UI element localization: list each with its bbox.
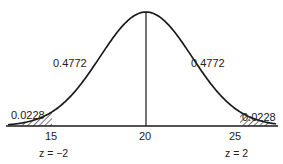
label-right-tail-area: 0.0228 bbox=[242, 112, 276, 123]
label-right-center-area: 0.4772 bbox=[191, 58, 225, 69]
tick-label-20: 20 bbox=[139, 131, 151, 142]
bell-curve bbox=[8, 12, 276, 125]
z-label-right: z = 2 bbox=[225, 148, 248, 159]
tick-label-25: 25 bbox=[229, 131, 241, 142]
tick-label-15: 15 bbox=[45, 131, 57, 142]
label-left-center-area: 0.4772 bbox=[53, 58, 87, 69]
label-left-tail-area: 0.0228 bbox=[11, 110, 45, 121]
z-label-left: z = −2 bbox=[39, 148, 68, 159]
